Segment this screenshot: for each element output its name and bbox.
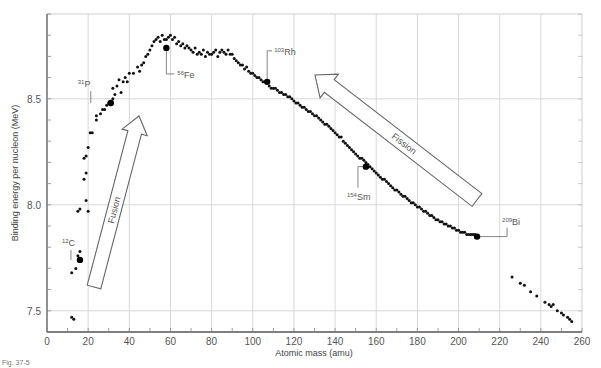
data-point [241, 63, 244, 66]
x-tick-label: 0 [44, 336, 50, 347]
x-tick-label: 260 [574, 336, 591, 347]
leader-line-103Rh [267, 51, 272, 82]
data-point [72, 318, 75, 321]
data-point [136, 66, 139, 69]
data-point [132, 72, 135, 75]
nuclide-label-12C: 12C [62, 238, 76, 248]
data-point [83, 178, 86, 181]
data-point [95, 119, 98, 122]
leader-line-154Sm [358, 167, 366, 188]
data-point [204, 55, 207, 58]
data-point [556, 309, 559, 312]
data-point [115, 85, 118, 88]
nuclide-label-56Fe: 56Fe [177, 70, 194, 80]
data-point [194, 46, 197, 49]
data-point [192, 51, 195, 54]
x-tick-label: 160 [368, 336, 385, 347]
x-tick-label: 180 [409, 336, 426, 347]
data-point [85, 172, 88, 175]
data-point [159, 40, 162, 43]
data-point [111, 97, 114, 100]
data-point [552, 303, 555, 306]
highlight-point-56Fe [163, 45, 169, 51]
highlight-point-31P [108, 100, 114, 106]
data-point [91, 131, 94, 134]
data-point [78, 250, 81, 253]
data-point [74, 267, 77, 270]
x-tick-label: 60 [165, 336, 177, 347]
data-point [70, 271, 73, 274]
data-point [142, 61, 145, 64]
data-point [200, 53, 203, 56]
data-point [173, 36, 176, 39]
data-point [181, 42, 184, 45]
data-point [519, 282, 522, 285]
data-point [85, 199, 88, 202]
data-point [99, 112, 102, 115]
data-point [126, 80, 129, 83]
data-point [76, 254, 79, 257]
nuclide-label-103Rh: 103Rh [274, 47, 296, 57]
data-point [157, 36, 160, 39]
nuclide-label-209Bi: 209Bi [502, 217, 520, 227]
data-point [202, 49, 205, 52]
y-tick-label: 8.5 [27, 94, 41, 105]
data-point [231, 53, 234, 56]
process-arrows: FusionFission [87, 74, 482, 289]
data-point [214, 49, 217, 52]
nuclide-label-31P: 31P [78, 79, 91, 89]
data-point [570, 320, 573, 323]
y-tick-label: 8.0 [27, 200, 41, 211]
data-point [87, 146, 90, 149]
data-point [225, 53, 228, 56]
data-point [103, 108, 106, 111]
y-tick-label: 7.5 [27, 306, 41, 317]
x-tick-label: 100 [244, 336, 261, 347]
data-point [122, 80, 125, 83]
data-point [161, 34, 164, 37]
data-point [113, 93, 116, 96]
data-point [227, 49, 230, 52]
x-tick-label: 80 [206, 336, 218, 347]
data-point [87, 210, 90, 213]
figure-caption: Fig. 37-5 [2, 359, 30, 366]
data-point [529, 290, 532, 293]
highlight-point-12C [77, 257, 83, 263]
x-tick-label: 200 [450, 336, 467, 347]
x-axis-title: Atomic mass (amu) [275, 348, 353, 358]
x-tick-label: 220 [491, 336, 508, 347]
data-point [85, 155, 88, 158]
highlight-point-209Bi [474, 233, 480, 239]
x-tick-label: 240 [533, 336, 550, 347]
x-tick-label: 20 [83, 336, 95, 347]
data-point [120, 91, 123, 94]
binding-energy-chart: 0204060801001201401601802002202402607.58… [0, 0, 601, 368]
data-point [535, 294, 538, 297]
x-tick-label: 140 [327, 336, 344, 347]
data-point [177, 40, 180, 43]
data-point [216, 55, 219, 58]
data-point [118, 78, 121, 81]
data-point [128, 72, 131, 75]
data-point [511, 275, 514, 278]
data-point [543, 301, 546, 304]
data-point [245, 66, 248, 69]
x-tick-label: 120 [286, 336, 303, 347]
y-axis-title: Binding energy per nucleon (MeV) [10, 105, 20, 242]
data-point [148, 49, 151, 52]
leader-line-209Bi [477, 228, 507, 237]
x-tick-label: 40 [124, 336, 136, 347]
data-point [150, 44, 153, 47]
data-point [169, 34, 172, 37]
data-point [138, 70, 141, 73]
data-point [523, 284, 526, 287]
data-point [562, 314, 565, 317]
data-point [95, 114, 98, 117]
data-point [78, 208, 81, 211]
highlight-point-103Rh [264, 79, 270, 85]
data-point [146, 53, 149, 56]
highlight-point-154Sm [363, 163, 369, 169]
data-point [111, 87, 114, 90]
data-point [124, 76, 127, 79]
data-point [340, 135, 343, 138]
